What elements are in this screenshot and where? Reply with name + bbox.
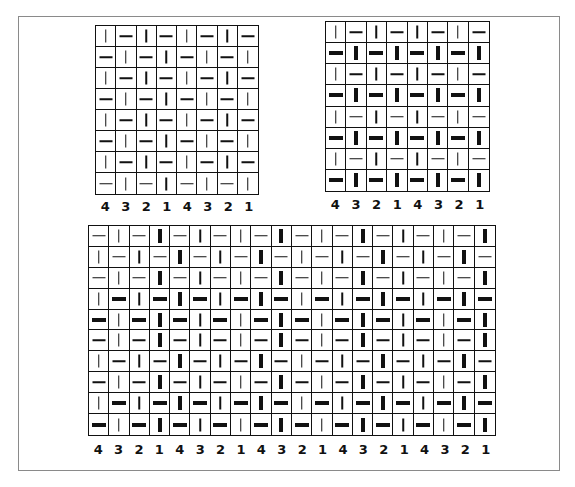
grid-cell <box>414 414 434 435</box>
thin-vertical-stroke-icon <box>240 229 242 242</box>
thin-vertical-stroke-icon <box>220 355 222 368</box>
grid-cell <box>373 226 393 247</box>
grid-cell <box>469 128 489 149</box>
thin-horizontal-stroke-icon <box>140 98 153 100</box>
thin-vertical-stroke-icon <box>206 93 208 106</box>
grid-cell <box>393 393 413 414</box>
grid-cell <box>312 310 332 331</box>
thick-vertical-stroke-icon <box>158 313 162 327</box>
grid-cell <box>177 152 197 173</box>
thin-horizontal-stroke-icon <box>350 158 363 160</box>
grid-cell <box>197 68 217 89</box>
thick-vertical-stroke-icon <box>354 46 358 60</box>
thin-horizontal-stroke-icon <box>255 277 268 279</box>
thick-vertical-stroke-icon <box>477 131 481 145</box>
grid-cell <box>96 68 116 89</box>
grid-cell <box>218 131 238 152</box>
thin-horizontal-stroke-icon <box>180 140 193 142</box>
thin-horizontal-stroke-icon <box>336 381 349 383</box>
grid-cell <box>448 85 468 106</box>
grid-cell <box>475 393 495 414</box>
thin-horizontal-stroke-icon <box>437 361 450 363</box>
thin-horizontal-stroke-icon <box>458 381 471 383</box>
thin-vertical-stroke-icon <box>166 135 168 148</box>
thin-horizontal-stroke-icon <box>431 74 444 76</box>
thin-vertical-stroke-icon <box>220 397 222 410</box>
thick-horizontal-stroke-icon <box>254 423 268 427</box>
grid-cell <box>469 43 489 64</box>
grid-cell <box>272 330 292 351</box>
grid-cell <box>312 247 332 268</box>
thin-vertical-stroke-icon <box>341 292 343 305</box>
column-label: 2 <box>292 442 312 457</box>
thin-vertical-stroke-icon <box>247 51 249 64</box>
grid-cell <box>130 414 150 435</box>
column-label: 1 <box>149 442 169 457</box>
thin-horizontal-stroke-icon <box>472 116 485 118</box>
grid-cell <box>96 26 116 47</box>
grid-cell <box>197 89 217 110</box>
thin-horizontal-stroke-icon <box>153 256 166 258</box>
thin-horizontal-stroke-icon <box>92 235 105 237</box>
grid-cell <box>157 152 177 173</box>
grid-cell <box>353 226 373 247</box>
grid-cell <box>346 170 366 191</box>
thin-vertical-stroke-icon <box>402 418 404 431</box>
grid-cell <box>292 414 312 435</box>
thin-horizontal-stroke-icon <box>255 340 268 342</box>
thick-vertical-stroke-icon <box>436 46 440 60</box>
thick-horizontal-stroke-icon <box>396 297 410 301</box>
grid-cell <box>150 372 170 393</box>
thin-horizontal-stroke-icon <box>200 35 213 37</box>
thin-vertical-stroke-icon <box>240 376 242 389</box>
grid-cell <box>211 414 231 435</box>
grid-cell <box>387 22 407 43</box>
thin-horizontal-stroke-icon <box>417 381 430 383</box>
grid-cell <box>170 372 190 393</box>
grid-cell <box>475 226 495 247</box>
thin-vertical-stroke-icon <box>186 30 188 43</box>
grid-cell <box>333 310 353 331</box>
thick-vertical-stroke-icon <box>158 333 162 347</box>
column-label: 2 <box>449 197 470 212</box>
thin-horizontal-stroke-icon <box>478 256 491 258</box>
grid-cell <box>211 372 231 393</box>
grid-cell <box>353 289 373 310</box>
thin-vertical-stroke-icon <box>105 30 107 43</box>
column-label: 3 <box>190 442 210 457</box>
thin-horizontal-stroke-icon <box>221 98 234 100</box>
grid-cell <box>312 330 332 351</box>
grid-cell <box>346 43 366 64</box>
thick-horizontal-stroke-icon <box>457 423 471 427</box>
grid-cell <box>170 393 190 414</box>
grid-cell <box>434 289 454 310</box>
thick-vertical-stroke-icon <box>477 88 481 102</box>
grid-cell <box>190 247 210 268</box>
grid-cell <box>454 289 474 310</box>
thin-vertical-stroke-icon <box>240 313 242 326</box>
thin-vertical-stroke-icon <box>402 334 404 347</box>
thick-vertical-stroke-icon <box>462 354 466 368</box>
grid-cell <box>428 107 448 128</box>
grid-cell <box>312 351 332 372</box>
grid-cell <box>353 247 373 268</box>
column-label: 4 <box>325 197 346 212</box>
grid-cell <box>231 289 251 310</box>
grid-cell <box>373 414 393 435</box>
grid-cell <box>150 351 170 372</box>
thin-vertical-stroke-icon <box>416 26 418 39</box>
grid-cell <box>434 372 454 393</box>
column-label: 3 <box>346 197 367 212</box>
grid-cell <box>387 43 407 64</box>
grid-cell <box>333 247 353 268</box>
thin-vertical-stroke-icon <box>118 229 120 242</box>
thin-horizontal-stroke-icon <box>431 158 444 160</box>
thin-horizontal-stroke-icon <box>173 235 186 237</box>
thick-horizontal-stroke-icon <box>132 423 146 427</box>
grid-cell <box>130 351 150 372</box>
column-label: 3 <box>198 199 219 214</box>
grid-cell <box>116 26 136 47</box>
thick-vertical-stroke-icon <box>361 271 365 285</box>
grid-cell <box>150 330 170 351</box>
thin-horizontal-stroke-icon <box>133 277 146 279</box>
